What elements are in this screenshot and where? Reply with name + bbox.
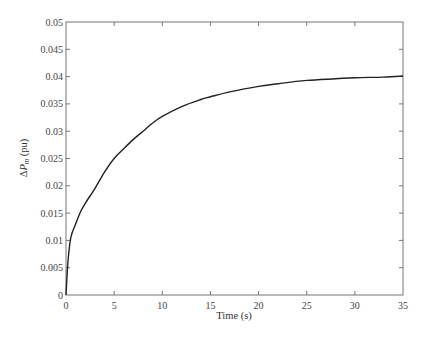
plot-area (66, 22, 403, 295)
data-line (66, 76, 403, 295)
y-tick-label: 0.04 (46, 71, 64, 82)
y-tick-label: 0.02 (46, 180, 64, 191)
y-tick-label: 0.03 (46, 126, 64, 137)
x-tick-label: 10 (157, 300, 167, 311)
x-tick-label: 35 (398, 300, 408, 311)
line-chart: 05101520253035 00.0050.010.0150.020.0250… (0, 0, 428, 339)
y-tick-label: 0.01 (46, 235, 64, 246)
x-tick-label: 25 (302, 300, 312, 311)
y-tick-label: 0.005 (41, 262, 64, 273)
x-axis-label: Time (s) (216, 310, 252, 322)
x-axis: 05101520253035 (64, 22, 409, 311)
y-tick-label: 0.035 (41, 98, 64, 109)
x-tick-label: 5 (112, 300, 117, 311)
x-tick-label: 0 (64, 300, 69, 311)
y-tick-label: 0.05 (46, 17, 64, 28)
y-label-unit: (pu) (18, 138, 30, 159)
x-tick-label: 20 (254, 300, 264, 311)
plot-border (66, 22, 403, 295)
y-axis: 00.0050.010.0150.020.0250.030.0350.040.0… (41, 17, 404, 301)
y-axis-label: ΔPm (pu) (18, 138, 31, 177)
y-tick-label: 0.015 (41, 208, 64, 219)
x-tick-label: 15 (205, 300, 215, 311)
y-tick-label: 0 (58, 290, 63, 301)
y-tick-label: 0.045 (41, 44, 64, 55)
y-tick-label: 0.025 (41, 153, 64, 164)
x-tick-label: 30 (350, 300, 360, 311)
